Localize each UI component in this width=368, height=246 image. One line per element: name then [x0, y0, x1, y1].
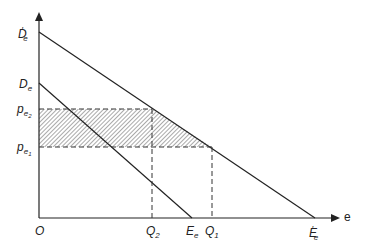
label-e-e-prime: E′e — [309, 225, 318, 242]
label-d-e-prime: D′e — [18, 26, 28, 43]
label-pe2: pe2 — [17, 103, 31, 119]
label-q2: Q2 — [146, 225, 160, 240]
label-e-e: Ee — [186, 225, 198, 240]
label-q1: Q1 — [205, 225, 219, 240]
x-axis-arrow-icon — [331, 214, 340, 222]
label-d-e: De — [19, 78, 32, 93]
demand-curve — [39, 83, 192, 218]
y-axis-arrow-icon — [35, 12, 43, 21]
hatched-region — [39, 109, 212, 147]
label-pe1: pe1 — [17, 141, 31, 157]
label-origin: O — [35, 225, 44, 237]
label-x-axis: e — [344, 211, 351, 223]
diagram-canvas — [0, 0, 368, 246]
